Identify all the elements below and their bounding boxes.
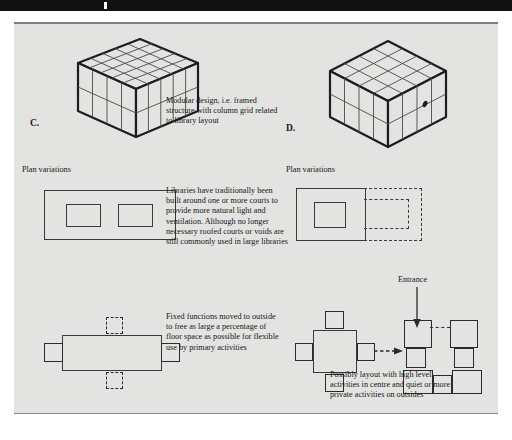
top-bar-notch: [104, 2, 107, 9]
caption-courts: Libraries have traditionally been built …: [166, 186, 288, 247]
diagram-sheet: C.: [14, 22, 498, 414]
entrance-label: Entrance: [398, 275, 427, 284]
page-root: C.: [0, 0, 512, 440]
cluster-connector: [430, 327, 450, 329]
caption-possible-layout: Possibly layout with high level activiti…: [330, 370, 455, 401]
figure-c-label: C.: [30, 118, 39, 128]
plan-variations-label-d: Plan variations: [286, 165, 335, 174]
top-black-bar: [0, 0, 512, 11]
transformation-arrow: [374, 344, 404, 358]
isometric-block-d: [286, 31, 461, 156]
figure-d-label: D.: [286, 123, 295, 133]
isometric-block-c: [30, 31, 200, 151]
plan-variations-label-c: Plan variations: [22, 165, 71, 174]
caption-fixed-functions: Fixed functions moved to outside to free…: [166, 312, 284, 353]
caption-modular-design: Modular design, i.e. framed structure wi…: [166, 96, 281, 127]
